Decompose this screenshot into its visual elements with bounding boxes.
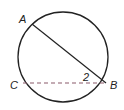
point-label-b: B [110,79,117,91]
circle-diagram: A C B 2 [0,0,124,110]
circle [18,12,108,102]
angle-label: 2 [82,71,89,83]
point-label-c: C [10,79,18,91]
point-label-a: A [18,13,26,25]
chord-ab [32,24,106,83]
